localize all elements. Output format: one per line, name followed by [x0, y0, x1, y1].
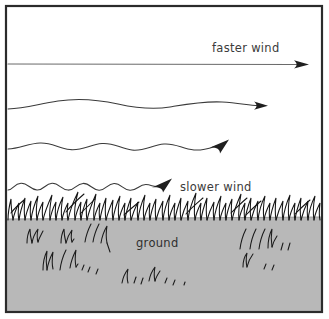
- wind-gradient-figure: faster wind slower wind ground: [0, 0, 329, 319]
- figure-canvas: [0, 0, 329, 319]
- label-ground: ground: [136, 238, 179, 250]
- ground-region: [6, 217, 322, 312]
- label-slower-wind: slower wind: [180, 182, 252, 194]
- flow-line-faster-wind: [8, 64, 297, 65]
- label-faster-wind: faster wind: [212, 43, 280, 55]
